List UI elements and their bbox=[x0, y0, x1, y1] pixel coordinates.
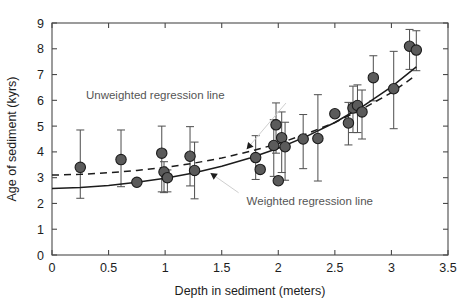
plot-frame bbox=[52, 23, 448, 255]
data-point bbox=[269, 140, 279, 150]
data-point-markers bbox=[75, 41, 421, 188]
x-tick-label: 3.5 bbox=[439, 261, 456, 275]
data-point bbox=[75, 162, 85, 172]
x-tick-label: 1 bbox=[162, 261, 169, 275]
scatter-plot-with-regression-lines: 00.511.522.533.5 0123456789 Depth in sed… bbox=[0, 0, 472, 302]
data-point bbox=[162, 172, 172, 182]
data-point bbox=[255, 164, 265, 174]
x-axis-title: Depth in sediment (meters) bbox=[175, 284, 326, 298]
y-tick-label: 0 bbox=[37, 249, 44, 263]
y-tick-label: 1 bbox=[37, 223, 44, 237]
data-point bbox=[357, 107, 367, 117]
data-point bbox=[330, 109, 340, 119]
y-axis-ticks bbox=[52, 23, 448, 255]
y-tick-label: 5 bbox=[37, 120, 44, 134]
x-tick-label: 2 bbox=[275, 261, 282, 275]
x-tick-label: 0.5 bbox=[100, 261, 117, 275]
data-point bbox=[343, 118, 353, 128]
data-point bbox=[132, 177, 142, 187]
y-tick-label: 6 bbox=[37, 94, 44, 108]
y-tick-label: 7 bbox=[37, 68, 44, 82]
x-axis-tick-labels: 00.511.522.533.5 bbox=[49, 261, 457, 275]
data-point bbox=[280, 142, 290, 152]
y-tick-label: 2 bbox=[37, 197, 44, 211]
x-tick-label: 2.5 bbox=[326, 261, 343, 275]
data-point bbox=[368, 72, 378, 82]
annotation-label-unweighted: Unweighted regression line bbox=[86, 89, 225, 101]
data-point bbox=[157, 148, 167, 158]
data-point bbox=[273, 176, 283, 186]
data-point bbox=[250, 152, 260, 162]
data-point bbox=[411, 45, 421, 55]
annotation-layer: Unweighted regression lineWeighted regre… bbox=[86, 89, 373, 207]
y-tick-label: 8 bbox=[37, 42, 44, 56]
y-tick-label: 4 bbox=[37, 145, 44, 159]
y-tick-label: 9 bbox=[37, 17, 44, 31]
annotation-arrow-weighted bbox=[210, 173, 217, 180]
x-tick-label: 3 bbox=[388, 261, 395, 275]
data-point bbox=[313, 133, 323, 143]
data-point bbox=[271, 120, 281, 130]
data-point bbox=[388, 84, 398, 94]
y-axis-title: Age of sediment (kyrs) bbox=[5, 76, 19, 201]
x-tick-label: 0 bbox=[49, 261, 56, 275]
data-point bbox=[189, 165, 199, 175]
x-axis-ticks bbox=[52, 23, 448, 255]
data-point bbox=[116, 154, 126, 164]
chart-container: 00.511.522.533.5 0123456789 Depth in sed… bbox=[0, 0, 472, 302]
data-point bbox=[185, 151, 195, 161]
y-axis-tick-labels: 0123456789 bbox=[37, 17, 44, 263]
annotation-label-weighted: Weighted regression line bbox=[247, 195, 373, 207]
data-point bbox=[298, 134, 308, 144]
error-bars bbox=[76, 29, 420, 198]
y-tick-label: 3 bbox=[37, 171, 44, 185]
x-tick-label: 1.5 bbox=[213, 261, 230, 275]
